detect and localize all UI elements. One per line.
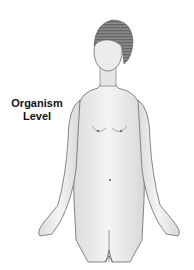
left-arm [39,100,80,236]
human-figure-illustration [0,0,194,270]
navel [109,179,111,181]
right-arm [138,100,179,236]
